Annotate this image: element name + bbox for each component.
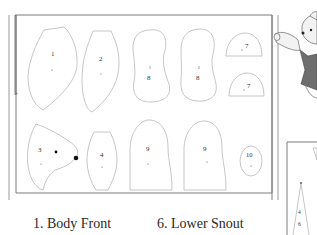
piece-9a <box>130 120 172 190</box>
piece-7a-label: 7 <box>245 42 249 50</box>
teddy-bear-illustration <box>274 12 317 98</box>
bear-paw <box>274 34 280 41</box>
eye-mark <box>55 151 58 154</box>
piece-2 <box>82 31 119 112</box>
piece-1-body-front <box>28 27 77 110</box>
nose-mark <box>74 156 79 161</box>
caption-body-front: 1. Body Front <box>33 216 111 232</box>
side-label-6: 6 <box>298 221 301 227</box>
piece-8b <box>181 29 216 101</box>
bear-eye <box>310 29 312 31</box>
bear-nose <box>302 32 305 35</box>
second-pattern-board: 4 6 <box>287 142 317 235</box>
piece-8a <box>133 30 170 102</box>
board-inner-frame <box>16 15 272 193</box>
piece-10-label: 10 <box>246 151 253 158</box>
board-frame <box>15 15 272 200</box>
piece-2-label: 2 <box>99 55 103 63</box>
pattern-sheet: 1 2 8 8 7 7 3 4 9 <box>0 0 317 235</box>
partial-piece <box>313 148 317 160</box>
piece-7a <box>226 33 262 56</box>
pattern-diagram: 1 2 8 8 7 7 3 4 9 <box>0 0 317 235</box>
piece-9a-label: 9 <box>146 145 150 153</box>
piece-8b-label: 8 <box>196 74 200 82</box>
bear-vest <box>300 50 317 90</box>
piece-9b-label: 9 <box>203 145 207 153</box>
piece-8a-label: 8 <box>147 74 151 82</box>
piece-1-label: 1 <box>51 50 55 58</box>
side-label-4: 4 <box>298 209 301 215</box>
piece-3-head-side <box>27 124 77 190</box>
piece-4 <box>87 132 117 190</box>
snout-piece <box>293 183 309 235</box>
piece-9b <box>184 121 226 190</box>
caption-lower-snout: 6. Lower Snout <box>157 216 244 232</box>
piece-3-label: 3 <box>38 146 42 154</box>
piece-7b-label: 7 <box>247 82 251 90</box>
piece-4-label: 4 <box>100 151 104 159</box>
